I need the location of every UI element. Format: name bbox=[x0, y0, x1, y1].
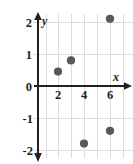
y-tick-label-neg1: -1 bbox=[23, 112, 33, 126]
data-point bbox=[106, 127, 114, 135]
y-tick-label-0: 0 bbox=[26, 80, 32, 94]
x-tick-label-4: 4 bbox=[81, 88, 88, 102]
x-axis-label: x bbox=[112, 70, 119, 84]
data-point bbox=[54, 68, 62, 76]
y-tick-label-1: 1 bbox=[26, 48, 32, 62]
y-axis-label: y bbox=[40, 14, 48, 28]
x-axis-arrow-right bbox=[124, 82, 132, 90]
y-tick-label-2: 2 bbox=[26, 16, 32, 30]
y-axis-arrow-up bbox=[34, 12, 42, 20]
scatter-plot-figure: 2 1 0 -1 -2 2 4 6 y x bbox=[0, 0, 133, 164]
data-point bbox=[106, 15, 114, 23]
y-axis-tick-labels: 2 1 0 -1 -2 bbox=[23, 16, 33, 158]
x-axis-tick-labels: 2 4 6 bbox=[55, 88, 113, 102]
scatter-plot-canvas: 2 1 0 -1 -2 2 4 6 y x bbox=[0, 0, 133, 164]
axis-names: y x bbox=[40, 14, 119, 84]
x-tick-label-6: 6 bbox=[107, 88, 113, 102]
data-point bbox=[67, 56, 75, 64]
y-tick-label-neg2: -2 bbox=[23, 144, 33, 158]
data-point bbox=[80, 140, 88, 148]
x-tick-label-2: 2 bbox=[55, 88, 61, 102]
y-axis-arrow-down bbox=[34, 153, 42, 162]
